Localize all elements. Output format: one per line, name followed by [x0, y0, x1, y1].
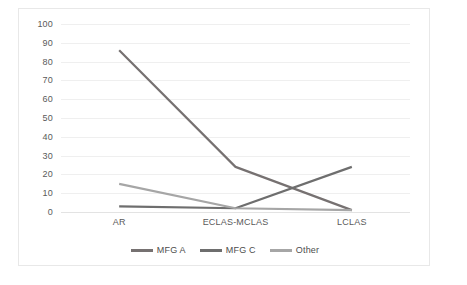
- x-axis: ARECLAS-MCLASLCLAS: [61, 217, 410, 235]
- legend-label: Other: [296, 245, 320, 255]
- legend-item[interactable]: MFG A: [131, 245, 186, 255]
- legend-item[interactable]: Other: [270, 245, 320, 255]
- y-axis-tick-label: 70: [43, 75, 53, 85]
- legend-line-icon: [200, 249, 222, 252]
- plot-area: [61, 24, 410, 212]
- y-axis-tick-label: 20: [43, 169, 53, 179]
- series-lines: [61, 24, 410, 212]
- chart-legend: MFG AMFG COther: [19, 245, 431, 255]
- x-axis-tick-label: AR: [113, 217, 126, 227]
- axis-baseline: [61, 212, 410, 213]
- y-axis-tick-label: 30: [43, 151, 53, 161]
- series-line: [119, 167, 352, 208]
- y-axis-tick-label: 80: [43, 57, 53, 67]
- y-axis-tick-label: 10: [43, 188, 53, 198]
- series-line: [119, 50, 352, 210]
- x-axis-tick-label: ECLAS-MCLAS: [203, 217, 269, 227]
- y-axis-tick-label: 60: [43, 94, 53, 104]
- legend-label: MFG A: [157, 245, 186, 255]
- legend-label: MFG C: [226, 245, 256, 255]
- chart-container: 1009080706050403020100 ARECLAS-MCLASLCLA…: [18, 8, 430, 266]
- y-axis: 1009080706050403020100: [19, 24, 57, 212]
- y-axis-tick-label: 100: [37, 19, 53, 29]
- legend-line-icon: [270, 249, 292, 252]
- x-axis-tick-label: LCLAS: [337, 217, 367, 227]
- y-axis-tick-label: 90: [43, 38, 53, 48]
- y-axis-tick-label: 50: [43, 113, 53, 123]
- y-axis-tick-label: 40: [43, 132, 53, 142]
- y-axis-tick-label: 0: [48, 207, 53, 217]
- legend-item[interactable]: MFG C: [200, 245, 256, 255]
- legend-line-icon: [131, 249, 153, 252]
